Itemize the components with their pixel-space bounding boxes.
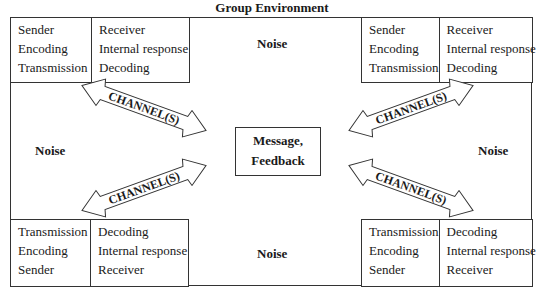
channel-arrow-top-left: CHANNEL(S) bbox=[77, 72, 211, 143]
channel-label: CHANNEL(S) bbox=[107, 89, 182, 128]
channel-label: CHANNEL(S) bbox=[374, 169, 449, 208]
channel-arrow-top-right: CHANNEL(S) bbox=[344, 72, 478, 143]
channel-arrow-bottom-left: CHANNEL(S) bbox=[77, 152, 211, 223]
channel-label: CHANNEL(S) bbox=[374, 89, 449, 128]
channel-label: CHANNEL(S) bbox=[107, 169, 182, 208]
channel-arrows: CHANNEL(S) CHANNEL(S) CHANNEL(S) CHANNEL… bbox=[0, 0, 544, 291]
channel-arrow-bottom-right: CHANNEL(S) bbox=[344, 152, 478, 223]
